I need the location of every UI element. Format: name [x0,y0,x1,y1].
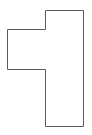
diagram-canvas [0,0,92,135]
diagram-svg [0,0,92,135]
polygon-shape [8,11,84,127]
